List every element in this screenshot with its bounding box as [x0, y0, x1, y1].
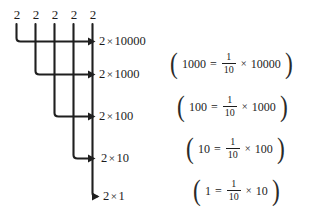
multiplication-sign: × — [242, 184, 256, 198]
multiplication-sign: × — [237, 57, 251, 71]
equation-left-term: 1000 — [182, 57, 206, 71]
fraction-denominator: 10 — [226, 150, 240, 160]
branch-label-10: 2×10 — [101, 152, 129, 165]
branch-label-10000: 2×10000 — [99, 35, 146, 48]
equation-right-term: 1000 — [252, 100, 276, 114]
digit-tens: 2 — [68, 8, 80, 21]
branch-place-value: 10 — [116, 151, 129, 165]
equation-body: 1 = 1 10 × 10 — [202, 179, 271, 202]
equation-right-term: 10 — [256, 184, 268, 198]
fraction-one-tenth: 1 10 — [221, 52, 237, 75]
branch-place-value: 1 — [118, 189, 124, 203]
branch-place-value: 100 — [114, 109, 133, 123]
digit-ten-thousands: 2 — [11, 8, 23, 21]
fraction-numerator: 1 — [228, 137, 237, 147]
fraction-denominator: 10 — [223, 108, 237, 118]
arrowhead-1 — [92, 193, 100, 201]
branch-path-10000 — [17, 24, 90, 42]
branch-path-1000 — [36, 24, 90, 75]
branch-place-value: 1000 — [114, 67, 139, 81]
equals-sign: = — [207, 100, 222, 114]
equation-left-term: 10 — [198, 142, 210, 156]
branch-place-value: 10000 — [114, 34, 145, 48]
equals-sign: = — [210, 142, 225, 156]
arrowheads — [88, 38, 100, 201]
branch-label-1000: 2×1000 — [99, 68, 139, 81]
multiplication-sign: × — [238, 100, 252, 114]
equation-right-term: 100 — [255, 142, 273, 156]
branch-path-1 — [93, 24, 98, 197]
place-value-tree-figure: 2 2 2 2 2 2×10000 2×1000 2×100 2×10 2×1 … — [0, 0, 317, 222]
digit-hundreds: 2 — [49, 8, 61, 21]
equation-100: ( 100 = 1 10 × 1000 ) — [176, 95, 289, 118]
fraction-denominator: 10 — [227, 192, 241, 202]
equation-10: ( 10 = 1 10 × 100 ) — [185, 137, 286, 160]
multiplication-sign: × — [241, 142, 255, 156]
fraction-denominator: 10 — [222, 65, 236, 75]
equals-sign: = — [206, 57, 221, 71]
equation-body: 1000 = 1 10 × 10000 — [179, 52, 284, 75]
equation-body: 100 = 1 10 × 1000 — [186, 95, 279, 118]
fraction-numerator: 1 — [229, 179, 238, 189]
equation-1000: ( 1000 = 1 10 × 10000 ) — [169, 52, 294, 75]
fraction-one-tenth: 1 10 — [225, 137, 241, 160]
branch-label-1: 2×1 — [103, 190, 125, 203]
digit-ones: 2 — [87, 8, 99, 21]
equals-sign: = — [211, 184, 226, 198]
branch-path-10 — [74, 24, 90, 159]
fraction-one-tenth: 1 10 — [226, 179, 242, 202]
digit-thousands: 2 — [30, 8, 42, 21]
fraction-numerator: 1 — [225, 95, 234, 105]
equation-1: ( 1 = 1 10 × 10 ) — [192, 179, 281, 202]
equation-body: 10 = 1 10 × 100 — [195, 137, 276, 160]
branch-label-100: 2×100 — [99, 110, 133, 123]
fraction-one-tenth: 1 10 — [222, 95, 238, 118]
equation-right-term: 10000 — [251, 57, 281, 71]
fraction-numerator: 1 — [224, 52, 233, 62]
branch-path-100 — [55, 24, 90, 117]
equation-left-term: 100 — [189, 100, 207, 114]
